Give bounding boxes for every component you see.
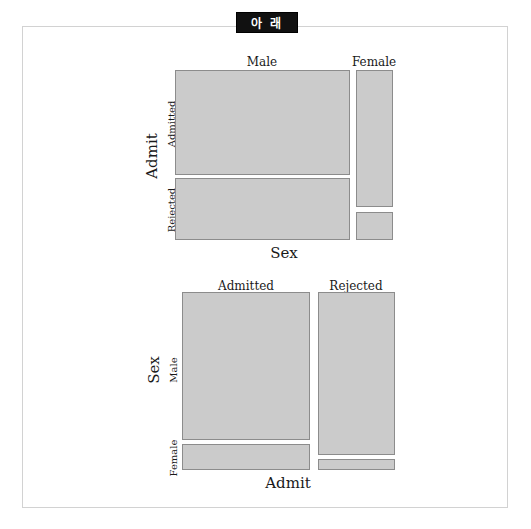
bottom-row-label-male: Male (169, 357, 179, 382)
bottom-col-label-rejected: Rejected (329, 280, 382, 292)
top-col-label-male: Male (247, 56, 277, 68)
tile-female-rejected[interactable] (356, 212, 393, 240)
tile-female-admitted[interactable] (356, 70, 393, 207)
bottom-col-label-admitted: Admitted (218, 280, 274, 292)
top-axis-title-sex: Sex (270, 246, 298, 261)
tile-rejected-female[interactable] (318, 459, 395, 470)
bottom-axis-title-sex: Sex (147, 356, 162, 384)
mosaic-plot-bottom: Admitted Rejected Sex Male Female Admit (140, 272, 420, 498)
mosaic-bottom-plot-area: Admitted Rejected Sex Male Female Admit (140, 272, 420, 498)
bottom-row-label-female: Female (169, 440, 179, 477)
tile-admitted-male[interactable] (182, 292, 310, 440)
tile-admitted-female[interactable] (182, 444, 310, 470)
page-canvas: 아 래 Male Female Admit Admitted Rejected … (0, 0, 531, 529)
mosaic-top-plot-area: Male Female Admit Admitted Rejected Sex (140, 48, 420, 264)
top-axis-title-admit: Admit (145, 133, 160, 178)
tile-male-admitted[interactable] (175, 70, 350, 175)
mosaic-plot-top: Male Female Admit Admitted Rejected Sex (140, 48, 420, 264)
figure-title-chip: 아 래 (236, 12, 298, 33)
top-col-label-female: Female (352, 56, 396, 68)
tile-rejected-male[interactable] (318, 292, 395, 455)
bottom-axis-title-admit: Admit (265, 476, 310, 491)
tile-male-rejected[interactable] (175, 178, 350, 240)
